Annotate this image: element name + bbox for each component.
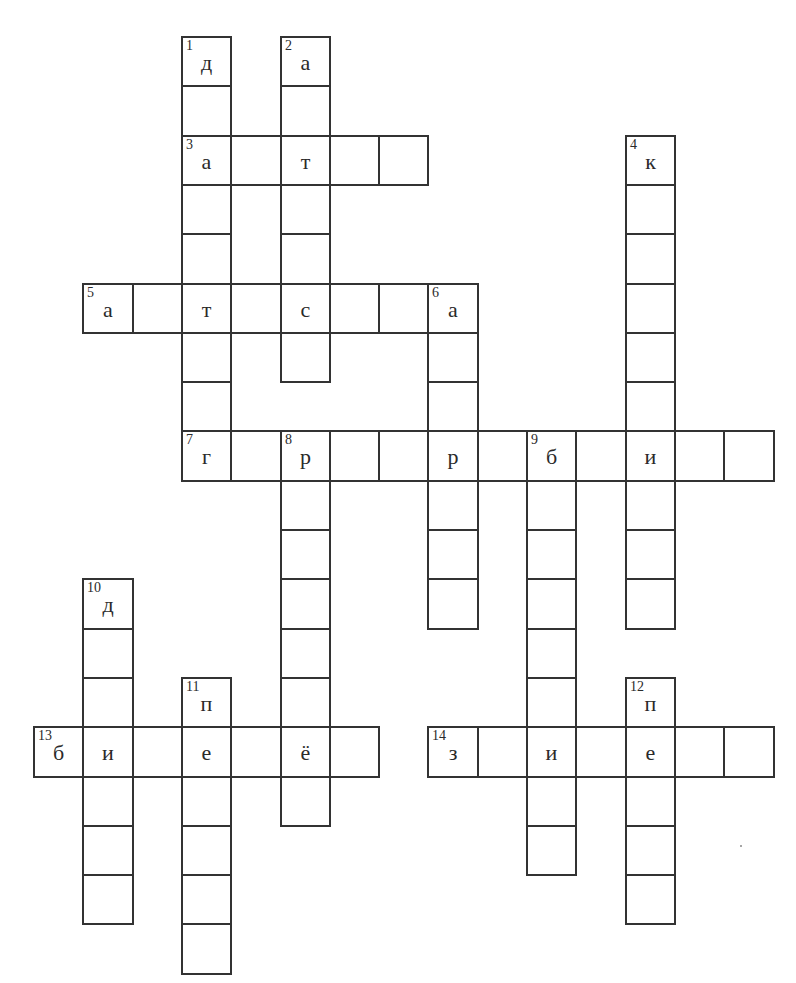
crossword-cell[interactable]: 7г bbox=[181, 430, 232, 482]
crossword-cell[interactable]: 10д bbox=[82, 578, 134, 630]
crossword-cell[interactable]: т bbox=[280, 135, 331, 186]
crossword-cell[interactable] bbox=[427, 332, 479, 383]
given-letter: и bbox=[627, 445, 674, 469]
crossword-cell[interactable] bbox=[625, 776, 676, 827]
given-letter: р bbox=[429, 445, 477, 469]
crossword-cell[interactable]: 4к bbox=[625, 135, 676, 186]
crossword-cell[interactable] bbox=[230, 283, 282, 334]
crossword-cell[interactable] bbox=[280, 677, 331, 728]
given-letter: е bbox=[627, 741, 674, 765]
crossword-cell[interactable] bbox=[427, 529, 479, 580]
crossword-cell[interactable] bbox=[82, 874, 134, 925]
crossword-cell[interactable] bbox=[329, 135, 380, 186]
crossword-cell[interactable] bbox=[723, 726, 775, 778]
crossword-cell[interactable]: е bbox=[181, 726, 232, 778]
crossword-cell[interactable] bbox=[230, 135, 282, 186]
crossword-cell[interactable] bbox=[526, 677, 577, 728]
crossword-cell[interactable] bbox=[82, 825, 134, 876]
crossword-cell[interactable] bbox=[427, 578, 479, 630]
crossword-cell[interactable]: 8р bbox=[280, 430, 331, 482]
stray-dot bbox=[740, 845, 742, 847]
crossword-cell[interactable] bbox=[82, 628, 134, 679]
crossword-cell[interactable] bbox=[625, 825, 676, 876]
crossword-cell[interactable] bbox=[230, 430, 282, 482]
crossword-cell[interactable] bbox=[329, 283, 380, 334]
crossword-cell[interactable] bbox=[280, 628, 331, 679]
crossword-cell[interactable]: 11п bbox=[181, 677, 232, 728]
given-letter: п bbox=[627, 692, 674, 716]
given-letter: с bbox=[282, 298, 329, 322]
crossword-cell[interactable] bbox=[181, 381, 232, 432]
crossword-cell[interactable] bbox=[181, 923, 232, 975]
crossword-cell[interactable] bbox=[674, 430, 725, 482]
crossword-cell[interactable] bbox=[230, 726, 282, 778]
crossword-cell[interactable] bbox=[575, 726, 627, 778]
crossword-cell[interactable]: е bbox=[625, 726, 676, 778]
crossword-cell[interactable] bbox=[625, 578, 676, 630]
crossword-cell[interactable] bbox=[280, 480, 331, 531]
crossword-cell[interactable] bbox=[181, 776, 232, 827]
crossword-cell[interactable]: 5а bbox=[82, 283, 134, 334]
crossword-cell[interactable]: 2а bbox=[280, 36, 331, 87]
crossword-cell[interactable] bbox=[427, 381, 479, 432]
crossword-cell[interactable]: 1д bbox=[181, 36, 232, 87]
crossword-cell[interactable] bbox=[477, 430, 528, 482]
crossword-cell[interactable] bbox=[181, 85, 232, 137]
given-letter: б bbox=[35, 741, 82, 765]
crossword-cell[interactable] bbox=[280, 332, 331, 383]
crossword-cell[interactable] bbox=[723, 430, 775, 482]
crossword-cell[interactable] bbox=[181, 184, 232, 235]
crossword-cell[interactable] bbox=[427, 480, 479, 531]
crossword-cell[interactable] bbox=[625, 381, 676, 432]
given-letter: б bbox=[528, 445, 575, 469]
crossword-cell[interactable] bbox=[280, 184, 331, 235]
crossword-cell[interactable] bbox=[526, 529, 577, 580]
crossword-cell[interactable] bbox=[477, 726, 528, 778]
crossword-cell[interactable]: 6а bbox=[427, 283, 479, 334]
crossword-cell[interactable] bbox=[625, 283, 676, 334]
crossword-cell[interactable] bbox=[329, 430, 380, 482]
crossword-cell[interactable] bbox=[280, 529, 331, 580]
crossword-cell[interactable]: и bbox=[625, 430, 676, 482]
crossword-cell[interactable]: 9б bbox=[526, 430, 577, 482]
crossword-cell[interactable]: р bbox=[427, 430, 479, 482]
crossword-cell[interactable] bbox=[378, 283, 429, 334]
crossword-cell[interactable]: с bbox=[280, 283, 331, 334]
crossword-cell[interactable] bbox=[280, 233, 331, 285]
crossword-cell[interactable] bbox=[181, 233, 232, 285]
crossword-cell[interactable] bbox=[625, 874, 676, 925]
crossword-cell[interactable] bbox=[280, 578, 331, 630]
crossword-cell[interactable]: 12п bbox=[625, 677, 676, 728]
crossword-cell[interactable] bbox=[575, 430, 627, 482]
crossword-cell[interactable] bbox=[280, 85, 331, 137]
crossword-cell[interactable]: и bbox=[82, 726, 134, 778]
crossword-cell[interactable] bbox=[280, 776, 331, 827]
crossword-cell[interactable] bbox=[132, 283, 183, 334]
crossword-cell[interactable] bbox=[181, 874, 232, 925]
crossword-cell[interactable] bbox=[625, 184, 676, 235]
crossword-cell[interactable]: 13б bbox=[33, 726, 84, 778]
crossword-cell[interactable] bbox=[82, 776, 134, 827]
crossword-cell[interactable] bbox=[181, 825, 232, 876]
crossword-cell[interactable]: ё bbox=[280, 726, 331, 778]
crossword-cell[interactable] bbox=[526, 578, 577, 630]
crossword-cell[interactable] bbox=[378, 430, 429, 482]
crossword-cell[interactable]: 14з bbox=[427, 726, 479, 778]
crossword-cell[interactable] bbox=[526, 776, 577, 827]
crossword-cell[interactable] bbox=[625, 332, 676, 383]
crossword-cell[interactable] bbox=[526, 628, 577, 679]
crossword-cell[interactable] bbox=[132, 726, 183, 778]
crossword-cell[interactable] bbox=[674, 726, 725, 778]
crossword-cell[interactable] bbox=[625, 233, 676, 285]
crossword-cell[interactable] bbox=[526, 480, 577, 531]
crossword-cell[interactable]: 3а bbox=[181, 135, 232, 186]
crossword-cell[interactable]: т bbox=[181, 283, 232, 334]
crossword-cell[interactable] bbox=[82, 677, 134, 728]
crossword-cell[interactable] bbox=[526, 825, 577, 876]
crossword-cell[interactable] bbox=[625, 529, 676, 580]
crossword-cell[interactable] bbox=[181, 332, 232, 383]
crossword-cell[interactable] bbox=[378, 135, 429, 186]
crossword-cell[interactable] bbox=[329, 726, 380, 778]
crossword-cell[interactable]: и bbox=[526, 726, 577, 778]
crossword-cell[interactable] bbox=[625, 480, 676, 531]
